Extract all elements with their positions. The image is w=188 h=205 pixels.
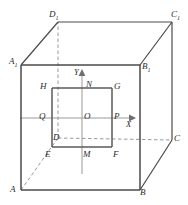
label-y-axis: Y <box>74 68 79 77</box>
label-H: H <box>40 82 47 91</box>
label-x-axis: X <box>126 120 131 129</box>
geometry-figure: D1 C1 A1 B1 H N G Q O P X Y D C E M F A … <box>0 0 188 205</box>
label-P: P <box>114 112 120 121</box>
label-E: E <box>45 150 51 159</box>
edge-A1-D1 <box>21 22 58 65</box>
label-O: O <box>84 112 91 121</box>
label-C: C <box>174 134 180 143</box>
hidden-edges-group <box>21 22 172 190</box>
label-Q: Q <box>39 112 46 121</box>
label-A1: A1 <box>9 57 18 68</box>
label-C1: C1 <box>171 10 180 21</box>
label-B1: B1 <box>142 62 151 73</box>
label-G: G <box>114 82 121 91</box>
cube-diagram-svg <box>0 0 188 205</box>
edge-B-C <box>140 140 172 190</box>
label-D: D <box>53 133 60 142</box>
cube-back-face <box>21 22 172 190</box>
label-A: A <box>10 185 16 194</box>
y-axis-arrowhead <box>79 69 86 76</box>
hidden-edge-D-C <box>58 138 172 140</box>
label-M: M <box>83 150 91 159</box>
label-D1: D1 <box>49 10 59 21</box>
label-F: F <box>113 150 119 159</box>
label-B: B <box>140 188 146 197</box>
label-N: N <box>86 80 92 89</box>
edge-B1-C1 <box>140 22 172 65</box>
cube-front-face <box>21 65 140 190</box>
